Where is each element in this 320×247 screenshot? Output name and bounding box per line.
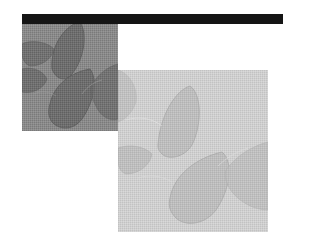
dark-petal-panel: [22, 24, 118, 131]
top-decorative-bar: [22, 14, 283, 24]
petal-pattern-dark-image: [22, 24, 118, 131]
light-petal-panel: [118, 70, 268, 232]
petal-pattern-light-image: [118, 70, 268, 232]
